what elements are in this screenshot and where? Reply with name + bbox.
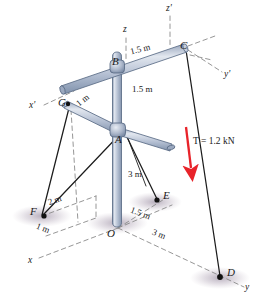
point-label-C: C: [180, 40, 187, 51]
axis-cq-line: [190, 55, 212, 60]
axis-label-x: x: [28, 256, 32, 266]
anchor-points: [41, 102, 223, 280]
point-G-dot: [66, 102, 70, 106]
point-label-O: O: [107, 228, 115, 239]
point-label-F: F: [30, 206, 37, 217]
force-label: T = 1.2 kN: [193, 137, 235, 147]
statics-figure: z z' y' x' x y B C A G F E O D 1.5 m 1.5…: [0, 0, 260, 308]
point-label-G: G: [58, 97, 66, 108]
axis-lines: [39, 16, 244, 287]
point-label-E: E: [163, 190, 170, 201]
axis-label-z: z: [123, 25, 127, 35]
dim-label-ba: 1.5 m: [132, 85, 153, 94]
point-F-dot: [41, 213, 46, 218]
axis-yp-line: [188, 50, 222, 72]
dim-label-pole: 3 m: [128, 170, 142, 179]
point-label-D: D: [227, 267, 235, 278]
axis-label-y: y: [245, 283, 249, 293]
axis-cp-line: [188, 36, 215, 46]
axis-label-z-prime: z': [166, 4, 172, 14]
force-arrow: [186, 127, 191, 168]
axis-label-x-prime: x': [29, 101, 35, 111]
point-label-A: B: [112, 56, 119, 67]
lower-boom-right: [118, 128, 175, 151]
point-E-dot: [154, 197, 159, 202]
axis-label-y-prime: y': [224, 70, 230, 80]
point-D-dot: [217, 274, 223, 280]
force-arrow-group: [186, 127, 191, 168]
point-label-A2: A: [115, 134, 122, 145]
